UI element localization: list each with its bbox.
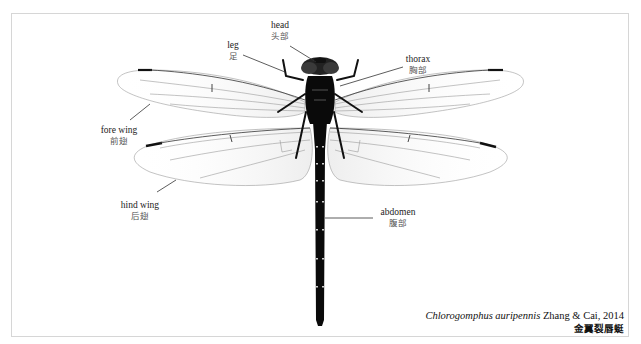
label-abdomen-en: abdomen — [375, 207, 421, 218]
label-leg-en: leg — [222, 40, 244, 51]
species-binomial: Chlorogomphus auripennis — [425, 310, 540, 321]
species-name-line: Chlorogomphus auripennis Zhang & Cai, 20… — [425, 309, 624, 322]
right-fore-wing — [335, 70, 523, 117]
label-hind-wing-zh: 后翅 — [115, 211, 165, 222]
species-caption: Chlorogomphus auripennis Zhang & Cai, 20… — [425, 309, 624, 335]
label-leg: leg 足 — [222, 40, 244, 62]
species-chinese-name: 金翼裂唇蜓 — [425, 322, 624, 335]
head — [301, 57, 339, 75]
left-hind-wing — [134, 128, 312, 186]
label-thorax: thorax 胸部 — [400, 54, 436, 76]
label-abdomen: abdomen 腹部 — [375, 207, 421, 229]
label-hind-wing-en: hind wing — [115, 200, 165, 211]
dragonfly-illustration — [0, 0, 641, 344]
right-hind-wing — [328, 128, 508, 186]
label-hind-wing: hind wing 后翅 — [115, 200, 165, 222]
label-head-en: head — [262, 20, 298, 31]
label-fore-wing-en: fore wing — [96, 125, 142, 136]
label-thorax-zh: 胸部 — [400, 65, 436, 76]
label-thorax-en: thorax — [400, 54, 436, 65]
label-leg-zh: 足 — [222, 51, 244, 62]
label-head-zh: 头部 — [262, 31, 298, 42]
label-abdomen-zh: 腹部 — [375, 218, 421, 229]
abdomen-body — [313, 122, 327, 326]
left-fore-wing — [117, 70, 305, 117]
label-head: head 头部 — [262, 20, 298, 42]
label-fore-wing: fore wing 前翅 — [96, 125, 142, 147]
species-authority: Zhang & Cai, 2014 — [540, 310, 624, 321]
label-fore-wing-zh: 前翅 — [96, 136, 142, 147]
